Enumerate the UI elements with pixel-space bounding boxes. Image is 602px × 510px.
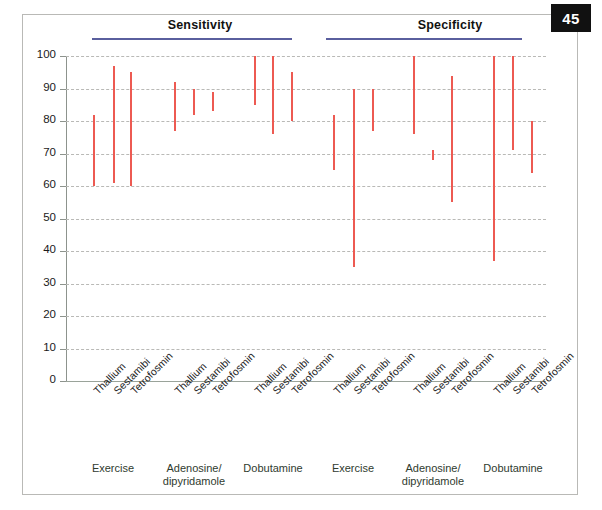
gridline-90 — [66, 89, 546, 90]
y-axis-label-100: 100 — [26, 48, 56, 60]
range-bar-specificity-exercise-tetrofosmin — [372, 89, 374, 131]
range-bar-specificity-dobutamine-sestamibi — [512, 56, 514, 150]
section-title-specificity: Specificity — [320, 18, 580, 32]
plot-area — [66, 56, 546, 381]
gridline-100 — [66, 56, 546, 57]
figure-container: 45 SensitivitySpecificity 10090807060504… — [0, 0, 602, 510]
range-bar-sensitivity-dobutamine-tetrofosmin — [291, 72, 293, 121]
gridline-70 — [66, 154, 546, 155]
y-axis-label-90: 90 — [26, 81, 56, 93]
range-bar-sensitivity-exercise-tetrofosmin — [130, 72, 132, 186]
range-bar-sensitivity-dobutamine-sestamibi — [272, 56, 274, 134]
y-axis-label-40: 40 — [26, 243, 56, 255]
page-number-badge: 45 — [551, 4, 591, 32]
y-axis-label-30: 30 — [26, 276, 56, 288]
range-bar-sensitivity-adenosine-dipyridamole-thallium — [174, 82, 176, 131]
range-bar-sensitivity-adenosine-dipyridamole-tetrofosmin — [212, 92, 214, 112]
group-label-line2: dipyridamole — [378, 475, 488, 488]
gridline-30 — [66, 284, 546, 285]
range-bar-specificity-dobutamine-tetrofosmin — [531, 121, 533, 173]
range-bar-sensitivity-dobutamine-thallium — [254, 56, 256, 105]
y-axis-label-80: 80 — [26, 113, 56, 125]
gridline-10 — [66, 349, 546, 350]
group-label-line2: dipyridamole — [139, 475, 249, 488]
range-bar-sensitivity-exercise-thallium — [93, 115, 95, 187]
group-label-line1: Dobutamine — [458, 462, 568, 475]
y-axis-label-10: 10 — [26, 341, 56, 353]
range-bar-sensitivity-exercise-sestamibi — [113, 66, 115, 183]
y-axis-label-50: 50 — [26, 211, 56, 223]
section-title-sensitivity: Sensitivity — [70, 18, 330, 32]
range-bar-specificity-adenosine-dipyridamole-sestamibi — [432, 150, 434, 160]
range-bar-specificity-exercise-thallium — [333, 115, 335, 170]
section-rule-specificity — [326, 38, 522, 40]
group-label-5: Dobutamine — [458, 462, 568, 475]
range-bar-specificity-exercise-sestamibi — [353, 89, 355, 268]
gridline-60 — [66, 186, 546, 187]
gridline-20 — [66, 316, 546, 317]
range-bar-specificity-dobutamine-thallium — [493, 56, 495, 261]
range-bar-specificity-adenosine-dipyridamole-thallium — [413, 56, 415, 134]
y-axis-label-70: 70 — [26, 146, 56, 158]
gridline-50 — [66, 219, 546, 220]
y-axis-label-20: 20 — [26, 308, 56, 320]
range-bar-specificity-adenosine-dipyridamole-tetrofosmin — [451, 76, 453, 203]
gridline-40 — [66, 251, 546, 252]
y-axis-label-60: 60 — [26, 178, 56, 190]
y-axis-label-0: 0 — [26, 373, 56, 385]
gridline-80 — [66, 121, 546, 122]
section-rule-sensitivity — [92, 38, 292, 40]
range-bar-sensitivity-adenosine-dipyridamole-sestamibi — [193, 89, 195, 115]
